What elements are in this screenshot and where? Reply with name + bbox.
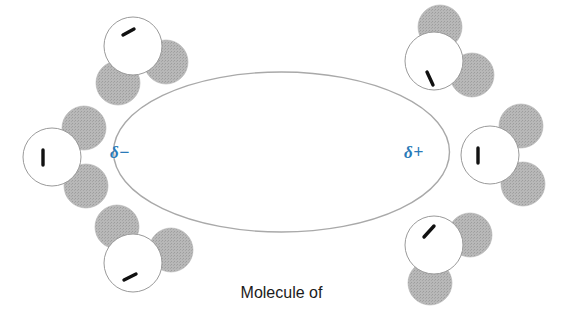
hydration-diagram: δ− δ+ Molecule of covalent compound: [0, 0, 563, 328]
plus-sign-glyph: +: [413, 142, 424, 162]
figure-caption: Molecule of covalent compound: [0, 243, 563, 328]
delta-plus-glyph: δ: [404, 143, 413, 162]
caption-line-1: Molecule of: [0, 283, 563, 303]
oxygen-atom: [104, 17, 162, 75]
oxygen-atom: [461, 126, 519, 184]
partial-positive-label: δ+: [404, 142, 424, 163]
partial-negative-label: δ−: [110, 142, 130, 163]
minus-sign-glyph: −: [119, 142, 130, 162]
oxygen-atom: [23, 128, 81, 186]
oxygen-atom: [405, 32, 463, 90]
delta-minus-glyph: δ: [110, 143, 119, 162]
